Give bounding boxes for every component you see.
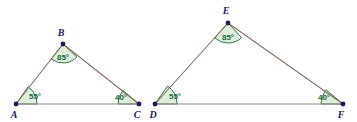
vertex-label-e: E — [222, 5, 230, 16]
angle-value-a: 55° — [29, 92, 41, 101]
angle-value-e: 85° — [222, 33, 234, 42]
vertex-label-d: D — [148, 109, 156, 120]
edge-EF — [228, 23, 343, 104]
angle-value-f: 40° — [318, 93, 330, 102]
triangle-abc: A55°B85°C40° — [10, 27, 142, 120]
vertex-label-b: B — [57, 27, 65, 38]
edge-BC — [63, 44, 139, 104]
triangle-def: D55°E85°F40° — [148, 5, 345, 120]
angle-value-d: 55° — [169, 92, 181, 101]
vertex-label-f: F — [337, 109, 345, 120]
edge-DE — [155, 23, 228, 104]
vertex-dot-a — [14, 102, 19, 107]
angle-value-b: 85° — [57, 53, 69, 62]
vertex-dot-c — [137, 102, 142, 107]
angle-value-c: 40° — [115, 93, 127, 102]
geometry-canvas: A55°B85°C40°D55°E85°F40° — [0, 0, 357, 122]
vertex-label-c: C — [134, 109, 141, 120]
vertex-label-a: A — [10, 109, 18, 120]
vertex-dot-e — [226, 21, 231, 26]
vertex-dot-f — [341, 102, 346, 107]
vertex-dot-b — [61, 42, 66, 47]
geometry-figure: A55°B85°C40°D55°E85°F40° — [0, 0, 357, 122]
vertex-dot-d — [153, 102, 158, 107]
